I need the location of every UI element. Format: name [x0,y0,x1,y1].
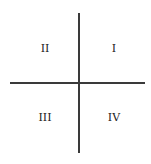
quadrant-label-i: I [112,43,116,54]
quadrant-label-iv: IV [108,112,120,123]
quadrant-label-ii: II [41,43,50,54]
quadrant-label-iii: III [38,112,51,123]
horizontal-axis [10,82,145,84]
quadrant-diagram: I II III IV [0,0,151,164]
